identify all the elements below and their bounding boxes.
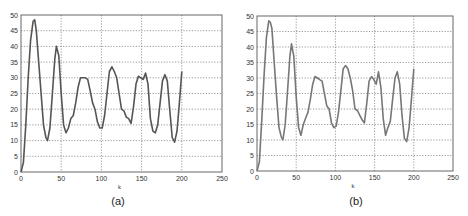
x-axis-label: k xyxy=(118,184,122,190)
y-tick-label: 35 xyxy=(10,59,18,66)
x-tick-label: 150 xyxy=(369,174,381,181)
x-tick-label: 200 xyxy=(176,175,188,182)
caption-a: (a) xyxy=(111,195,124,207)
y-tick-label: 0 xyxy=(250,168,254,175)
x-axis-label: k xyxy=(352,183,356,189)
y-tick-label: 25 xyxy=(10,90,18,97)
x-tick-label: 150 xyxy=(136,175,148,182)
y-tick-label: 15 xyxy=(10,121,18,128)
y-tick-label: 40 xyxy=(10,43,18,50)
x-tick-label: 50 xyxy=(57,175,65,182)
y-tick-label: 10 xyxy=(10,137,18,144)
y-tick-label: 50 xyxy=(246,13,254,20)
chart-panel-b: 05101520253035404550050100150200250k xyxy=(246,13,459,190)
figure: 05101520253035404550050100150200250k 051… xyxy=(0,0,468,216)
x-tick-label: 100 xyxy=(330,174,342,181)
x-tick-label: 200 xyxy=(408,174,420,181)
y-tick-label: 30 xyxy=(246,75,254,82)
y-tick-label: 50 xyxy=(10,12,18,19)
y-tick-label: 15 xyxy=(246,121,254,128)
x-tick-label: 250 xyxy=(447,174,459,181)
x-tick-label: 0 xyxy=(255,174,259,181)
y-tick-label: 40 xyxy=(246,44,254,51)
x-tick-label: 0 xyxy=(19,175,23,182)
y-tick-label: 35 xyxy=(246,59,254,66)
y-tick-label: 20 xyxy=(10,106,18,113)
x-tick-label: 100 xyxy=(96,175,108,182)
caption-b: (b) xyxy=(349,195,362,207)
y-tick-label: 10 xyxy=(246,137,254,144)
x-tick-label: 250 xyxy=(216,175,228,182)
x-tick-label: 50 xyxy=(292,174,300,181)
y-tick-label: 45 xyxy=(10,27,18,34)
chart-panel-a: 05101520253035404550050100150200250k xyxy=(10,12,228,191)
y-tick-label: 0 xyxy=(14,169,18,176)
y-tick-label: 45 xyxy=(246,28,254,35)
y-tick-label: 30 xyxy=(10,74,18,81)
y-tick-label: 20 xyxy=(246,106,254,113)
series-line xyxy=(21,20,182,172)
y-tick-label: 5 xyxy=(14,153,18,160)
y-tick-label: 5 xyxy=(250,152,254,159)
y-tick-label: 25 xyxy=(246,90,254,97)
